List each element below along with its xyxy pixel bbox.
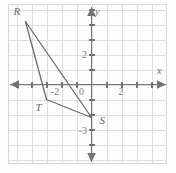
x-axis-label: x — [156, 65, 162, 76]
x-tick-label-neg2: -2 — [51, 86, 59, 97]
y-tick-label-neg3: -3 — [79, 125, 87, 136]
vertex-label-r: R — [13, 5, 21, 17]
vertex-label-s: S — [100, 114, 106, 126]
coordinate-plane-figure: R T S x y 0 -2 2 2 -3 — [0, 0, 176, 173]
vertex-label-t: T — [36, 101, 43, 113]
y-tick-label-2: 2 — [82, 49, 87, 60]
coordinate-plane-svg: R T S x y 0 -2 2 2 -3 — [0, 0, 176, 173]
origin-label: 0 — [79, 86, 84, 97]
x-tick-label-2: 2 — [119, 86, 124, 97]
y-axis-label: y — [94, 6, 100, 17]
